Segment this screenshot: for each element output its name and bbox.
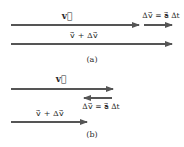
panel-a: v⃗ Δv⃗ = a⃗ Δt v⃗ + Δv⃗ (a) — [11, 11, 180, 64]
caption-a: (a) — [86, 55, 97, 64]
delta-velocity-label-b: Δv⃗ = a⃗ Δt — [82, 102, 119, 111]
caption-b: (b) — [86, 130, 97, 139]
delta-velocity-label-a: Δv⃗ = a⃗ Δt — [142, 11, 179, 20]
panel-b: v⃗ Δv⃗ = a⃗ Δt v⃗ + Δv⃗ (b) — [11, 74, 120, 139]
resultant-velocity-label-b: v⃗ + Δv⃗ — [36, 109, 64, 118]
resultant-velocity-label-a: v⃗ + Δv⃗ — [70, 31, 98, 40]
velocity-change-diagram: v⃗ Δv⃗ = a⃗ Δt v⃗ + Δv⃗ (a) v⃗ Δv⃗ = a⃗ … — [0, 0, 184, 147]
velocity-label-b: v⃗ — [55, 74, 67, 84]
velocity-label-a: v⃗ — [61, 11, 73, 21]
